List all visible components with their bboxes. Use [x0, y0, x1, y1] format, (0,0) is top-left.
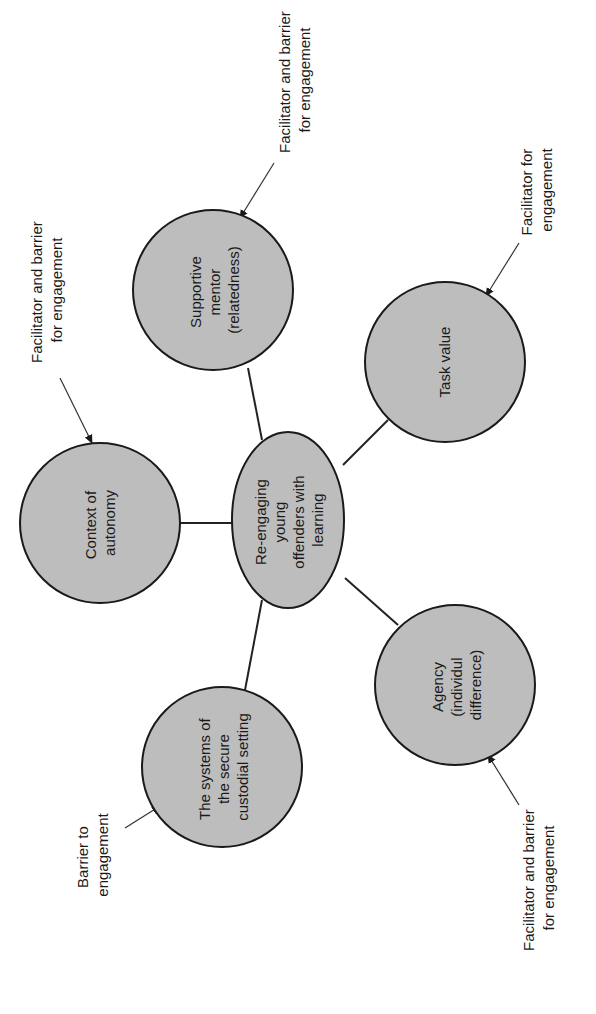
edge-center-systems — [245, 600, 262, 690]
node-systems-line-2: the secure — [215, 734, 232, 804]
node-agency-line-3: difference) — [467, 650, 484, 721]
edge-center-agency — [345, 578, 398, 625]
node-mentor: Supportive mentor (relatedness) — [133, 210, 293, 370]
annotation-mentor-line-1: Facilitator and barrier — [276, 11, 293, 153]
node-task: Task value — [365, 282, 525, 442]
annotation-task: Facilitator for engagement — [518, 145, 555, 236]
node-systems-line-3: custodial setting — [234, 713, 251, 821]
node-context-line-1: Context of — [82, 490, 99, 559]
center-line-2: young — [271, 502, 288, 543]
annotation-task-line-2: engagement — [538, 147, 555, 231]
svg-text:Task value: Task value — [436, 327, 453, 398]
node-mentor-line-1: Supportive — [187, 256, 204, 328]
annotation-context-line-1: Facilitator and barrier — [28, 221, 45, 363]
node-mentor-line-3: (relatedness) — [225, 246, 242, 334]
annotation-systems-line-1: Barrier to — [74, 826, 91, 888]
arrow-task — [486, 243, 519, 296]
node-mentor-line-2: mentor — [206, 269, 223, 316]
edge-center-task — [343, 420, 388, 465]
concept-diagram: Context of autonomy Supportive mentor (r… — [0, 0, 596, 1014]
node-center: Re-engaging young offenders with learnin… — [232, 432, 344, 608]
center-line-3: offenders with — [290, 476, 307, 569]
annotation-mentor-line-2: for engagement — [296, 27, 313, 133]
node-task-line-1: Task value — [436, 327, 453, 398]
node-context-line-2: autonomy — [101, 490, 118, 556]
center-line-1: Re-engaging — [252, 479, 269, 565]
node-context: Context of autonomy — [20, 443, 180, 603]
annotation-agency: Facilitator and barrier for engagement — [520, 805, 557, 951]
node-systems: The systems of the secure custodial sett… — [142, 687, 302, 847]
annotation-systems-line-2: engagement — [94, 812, 111, 896]
annotation-systems: Barrier to engagement — [74, 812, 111, 896]
arrow-agency — [488, 755, 519, 805]
edge-center-mentor — [248, 368, 262, 440]
annotation-context: Facilitator and barrier for engagement — [28, 217, 65, 363]
annotation-agency-line-2: for engagement — [540, 825, 557, 931]
node-agency-line-2: (individul — [448, 657, 465, 716]
arrow-mentor — [240, 163, 274, 218]
center-line-4: learning — [309, 493, 326, 546]
annotation-mentor: Facilitator and barrier for engagement — [276, 7, 313, 153]
node-agency: Agency (individul difference) — [375, 605, 535, 765]
node-systems-line-1: The systems of — [196, 717, 213, 820]
annotation-task-line-1: Facilitator for — [518, 149, 535, 236]
node-agency-line-1: Agency — [429, 662, 446, 713]
arrow-context — [60, 378, 92, 443]
svg-text:Agency (individul: Agency (individul difference) — [429, 650, 484, 721]
annotation-context-line-2: for engagement — [48, 237, 65, 343]
annotation-agency-line-1: Facilitator and barrier — [520, 809, 537, 951]
